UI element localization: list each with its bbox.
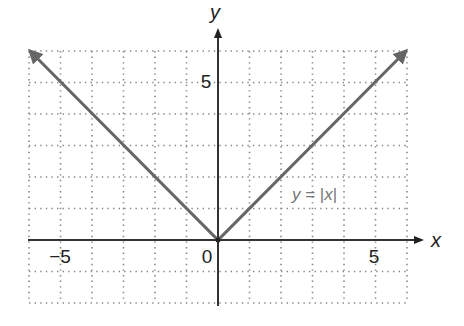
tick-label-neg5: −5	[49, 246, 71, 267]
y-axis-label: y	[208, 1, 221, 23]
origin-point	[216, 238, 221, 243]
tick-label-0: 0	[202, 246, 213, 267]
tick-label-5-y: 5	[201, 71, 212, 92]
abs-value-graph: −5 0 5 5 x y y = |x|	[0, 0, 464, 326]
x-axis-label: x	[430, 229, 442, 251]
tick-label-5-x: 5	[369, 246, 380, 267]
curve-annotation: y = |x|	[291, 185, 337, 204]
